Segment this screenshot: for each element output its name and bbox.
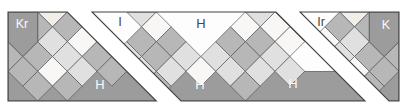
label-H-sky: H: [196, 16, 205, 31]
label-Kr: Kr: [16, 17, 29, 31]
label-I: I: [118, 14, 122, 29]
pattern-strip: KrIHIrKHHH: [0, 0, 407, 110]
label-H-ground-right: H: [288, 76, 297, 91]
label-H-ground-left: H: [95, 77, 104, 92]
label-H-ground-middle: H: [195, 77, 204, 92]
label-K: K: [382, 18, 391, 32]
border-pattern-diagram: KrIHIrKHHH: [0, 0, 407, 110]
pattern-svg: KrIHIrKHHH: [0, 0, 407, 110]
label-Ir: Ir: [317, 15, 325, 29]
